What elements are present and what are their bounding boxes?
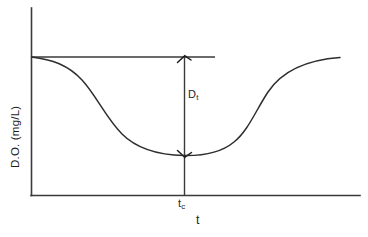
critical-time-label-subscript: c [181, 202, 185, 211]
critical-time-label: tc [178, 197, 185, 209]
y-axis-label: D.O. (mg/L) [9, 106, 21, 168]
dissolved-oxygen-sag-curve-figure: D.O. (mg/L) Dt tc t [0, 0, 368, 237]
sag-curve-path [32, 57, 341, 156]
deficit-label-base: D [188, 88, 196, 100]
x-axis-label: t [196, 213, 199, 227]
deficit-label: Dt [188, 88, 198, 100]
